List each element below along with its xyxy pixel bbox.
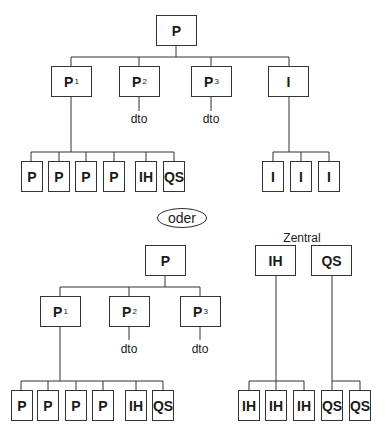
bl-p1-child-box: P [11, 390, 33, 421]
node-label: I [287, 74, 291, 90]
node-label: QS [153, 398, 173, 414]
br-qs-child-box: QS [321, 390, 343, 421]
node-label: P [27, 169, 36, 185]
top-i-child-box: I [290, 161, 312, 192]
bl-p1-child-box: IH [125, 390, 147, 421]
top-p2-box: P2 [119, 66, 160, 97]
br-qs-child-box: QS [349, 390, 371, 421]
top-i-child-box: I [318, 161, 340, 192]
node-subscript: 1 [63, 307, 67, 316]
top-p3-box: P3 [191, 66, 232, 97]
node-label: QS [322, 398, 342, 414]
top-p1-child-box: QS [163, 161, 185, 192]
br-qs-root-box: QS [311, 245, 352, 276]
node-label: P [17, 398, 26, 414]
top-p1-child-box: P [48, 161, 70, 192]
bl-p1-child-box: P [37, 390, 59, 421]
node-label: P [54, 169, 63, 185]
bl-p2-box: P2 [109, 296, 150, 327]
top-root-box: P [156, 15, 197, 46]
node-label: IH [129, 398, 143, 414]
top-i-child-box: I [262, 161, 284, 192]
br-ih-child-box: IH [293, 390, 315, 421]
node-label: I [299, 169, 303, 185]
top-p1-child-box: IH [135, 161, 157, 192]
node-label: P [71, 398, 80, 414]
top-p1-child-box: P [75, 161, 97, 192]
node-label: P [172, 23, 181, 39]
node-label: IH [269, 398, 283, 414]
node-label: P [109, 169, 118, 185]
top-p1-box: P1 [51, 66, 92, 97]
node-label: I [271, 169, 275, 185]
node-label: IH [139, 169, 153, 185]
node-label: P [204, 74, 213, 90]
node-label: P [132, 74, 141, 90]
bl-p1-child-box: P [65, 390, 87, 421]
node-subscript: 3 [203, 307, 207, 316]
zentral-heading: Zentral [283, 231, 320, 245]
node-subscript: 2 [142, 77, 146, 86]
node-label: P [53, 304, 62, 320]
top-p2-note: dto [131, 112, 148, 126]
bl-p3-box: P3 [180, 296, 221, 327]
node-label: IH [242, 398, 256, 414]
node-label: QS [321, 253, 341, 269]
node-label: P [81, 169, 90, 185]
node-label: P [193, 304, 202, 320]
node-label: P [43, 398, 52, 414]
node-label: IH [297, 398, 311, 414]
node-subscript: 3 [214, 77, 218, 86]
node-label: QS [164, 169, 184, 185]
br-ih-child-box: IH [238, 390, 260, 421]
node-label: P [122, 304, 131, 320]
top-i-box: I [268, 66, 309, 97]
br-ih-root-box: IH [255, 245, 296, 276]
br-ih-child-box: IH [265, 390, 287, 421]
top-p1-child-box: P [21, 161, 43, 192]
bl-p1-child-box: P [92, 390, 114, 421]
oder-oval: oder [157, 208, 207, 228]
node-label: QS [350, 398, 370, 414]
bl-root-box: P [145, 245, 186, 276]
node-label: P [98, 398, 107, 414]
node-label: P [161, 253, 170, 269]
bl-p1-box: P1 [40, 296, 81, 327]
node-subscript: 1 [74, 77, 78, 86]
node-label: P [64, 74, 73, 90]
top-p3-note: dto [203, 112, 220, 126]
bl-p2-note: dto [121, 342, 138, 356]
oval-label: oder [168, 210, 196, 226]
node-label: I [327, 169, 331, 185]
node-label: IH [269, 253, 283, 269]
top-p1-child-box: P [103, 161, 125, 192]
bl-p3-note: dto [192, 342, 209, 356]
node-subscript: 2 [132, 307, 136, 316]
bl-p1-child-box: QS [152, 390, 174, 421]
